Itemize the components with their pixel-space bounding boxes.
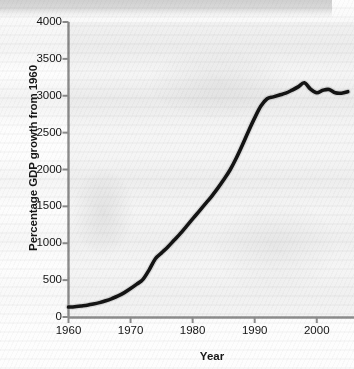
x-axis-title: Year xyxy=(70,350,354,362)
x-tick-label: 1980 xyxy=(168,324,218,336)
x-tick-label: 1990 xyxy=(230,324,280,336)
y-tick-label: 4000 xyxy=(18,16,62,28)
data-line-gdp-growth xyxy=(69,83,348,307)
y-tick-label: 1000 xyxy=(18,237,62,249)
y-axis-title: Percentage GDP growth from 1960 xyxy=(27,33,39,283)
x-tick-label: 1960 xyxy=(44,324,94,336)
y-tick-label: 1500 xyxy=(18,200,62,212)
y-tick-label: 2500 xyxy=(18,127,62,139)
y-tick-label: 2000 xyxy=(18,164,62,176)
x-tick-label: 2000 xyxy=(292,324,342,336)
y-tick-label: 0 xyxy=(18,311,62,323)
y-tick-label: 3000 xyxy=(18,90,62,102)
x-tick-label: 1970 xyxy=(106,324,156,336)
y-tick-label: 3500 xyxy=(18,53,62,65)
data-line-scan-bleed xyxy=(69,83,348,307)
gdp-growth-chart-figure: 05001000150020002500300035004000 1960197… xyxy=(0,0,354,369)
y-tick-label: 500 xyxy=(18,274,62,286)
